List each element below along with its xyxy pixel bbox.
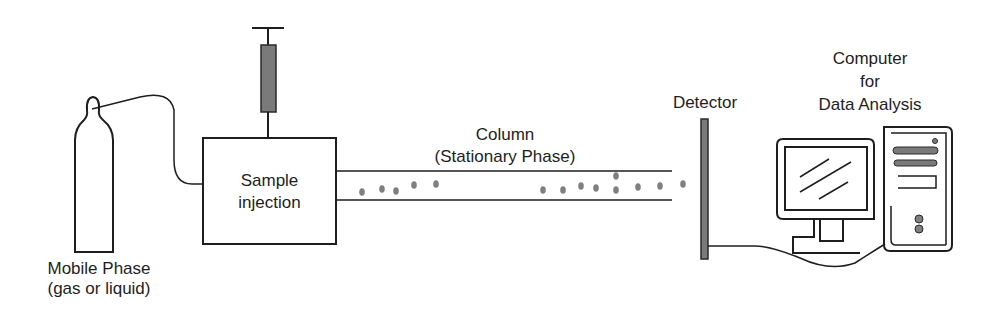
particle-dot (379, 185, 385, 193)
gas-cylinder-icon (75, 97, 113, 252)
particle-dot (411, 181, 417, 189)
computer-label-line2: for (790, 70, 950, 93)
particle-dot (540, 186, 546, 194)
sample-injection-label-line2: injection (203, 192, 336, 214)
computer-tower-icon (884, 127, 952, 251)
particle-dot (593, 184, 599, 192)
column-label: Column (Stationary Phase) (405, 124, 605, 168)
analyte-particles (359, 172, 686, 196)
detector-label-text: Detector (673, 93, 737, 112)
particle-dot (433, 180, 439, 188)
particle-dot (359, 188, 365, 196)
particle-dot (613, 172, 619, 180)
column-label-line1: Column (405, 124, 605, 146)
particle-dot (613, 186, 619, 194)
computer-label-line1: Computer (790, 47, 950, 70)
monitor-icon (777, 139, 874, 253)
particle-dot (680, 180, 686, 188)
particle-dot (560, 186, 566, 194)
computer-label: Computer for Data Analysis (790, 47, 950, 116)
detector-label: Detector (660, 93, 750, 113)
particle-dot (657, 182, 663, 190)
mobile-phase-label: Mobile Phase (gas or liquid) (24, 259, 174, 299)
particle-dot (635, 183, 641, 191)
supply-tube (92, 95, 203, 184)
column-label-line2: (Stationary Phase) (405, 146, 605, 168)
sample-injection-label: Sample injection (203, 170, 336, 214)
mobile-phase-label-line1: Mobile Phase (24, 259, 174, 279)
particle-dot (578, 182, 584, 190)
particle-dot (393, 187, 399, 195)
column-tube (336, 171, 672, 200)
data-cable (708, 244, 885, 267)
mobile-phase-label-line2: (gas or liquid) (24, 279, 174, 299)
detector-icon (701, 119, 708, 259)
sample-injection-label-line1: Sample (203, 170, 336, 192)
syringe-icon (252, 28, 284, 138)
computer-label-line3: Data Analysis (790, 93, 950, 116)
